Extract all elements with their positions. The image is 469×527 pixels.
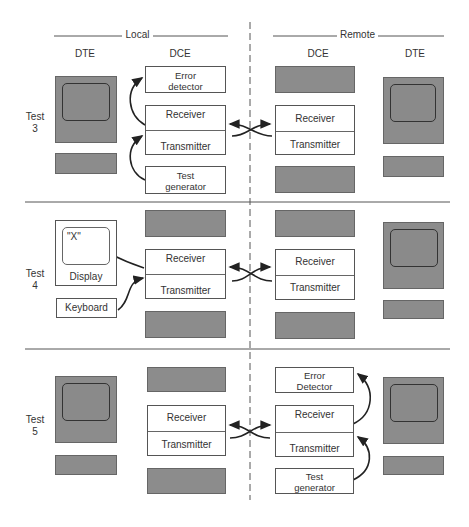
remote-dce-inactive-bottom — [275, 312, 355, 339]
local-dte-keyboard — [55, 455, 117, 475]
receiver-label: Receiver — [148, 412, 225, 423]
local-dce-inactive-bottom — [147, 468, 226, 494]
remote-dte-keyboard — [383, 156, 444, 177]
transmitter-label: Transmitter — [276, 443, 353, 454]
remote-dce-inactive-bottom — [275, 166, 355, 193]
remote-dte-header: DTE — [400, 48, 430, 59]
local-modem: Receiver Transmitter — [147, 405, 226, 456]
error-detector-box: Error detector — [145, 66, 226, 93]
display-char: "X" — [67, 231, 81, 242]
keyboard-box: Keyboard — [56, 298, 117, 318]
remote-dte-keyboard — [383, 456, 444, 475]
local-dce-inactive-top — [145, 210, 226, 237]
modem-divider — [276, 131, 354, 132]
transmitter-label: Transmitter — [276, 139, 354, 150]
remote-dce-inactive-top — [275, 210, 355, 237]
transmitter-label: Transmitter — [146, 141, 225, 152]
local-dce-inactive-bottom — [145, 311, 226, 338]
local-dte-terminal — [55, 376, 117, 443]
transmitter-label: Transmitter — [148, 439, 225, 450]
local-modem: Receiver Transmitter — [145, 249, 226, 299]
test-generator-box: Test generator — [145, 166, 226, 194]
remote-dce-inactive-top — [275, 66, 355, 93]
local-dce-inactive-top — [147, 367, 226, 392]
local-dce-header: DCE — [160, 48, 200, 59]
modem-divider — [146, 274, 225, 275]
local-dte-keyboard — [55, 153, 117, 174]
receiver-label: Receiver — [146, 109, 225, 120]
modem-divider — [146, 130, 225, 131]
modem-divider — [276, 432, 353, 433]
receiver-label: Receiver — [146, 253, 225, 264]
remote-dte-terminal — [383, 377, 444, 444]
local-modem: Receiver Transmitter — [145, 105, 226, 155]
error-detector-box: Error Detector — [275, 367, 354, 393]
test-5-label: Test 5 — [22, 414, 48, 438]
receiver-label: Receiver — [276, 409, 353, 420]
remote-header: Remote — [337, 29, 378, 40]
display-terminal: "X" Display — [55, 220, 117, 286]
local-dte-terminal — [55, 76, 117, 143]
display-label: Display — [56, 271, 116, 282]
transmitter-label: Transmitter — [276, 282, 354, 293]
transmitter-label: Transmitter — [146, 285, 225, 296]
terminal-screen-icon — [390, 84, 436, 122]
remote-dte-keyboard — [383, 300, 444, 319]
remote-dte-terminal — [383, 77, 444, 144]
modem-divider — [276, 275, 354, 276]
display-screen-icon: "X" — [62, 227, 110, 265]
remote-dce-header: DCE — [298, 48, 338, 59]
terminal-screen-icon — [390, 229, 438, 267]
modem-divider — [148, 431, 225, 432]
terminal-screen-icon — [62, 383, 110, 421]
receiver-label: Receiver — [276, 113, 354, 124]
remote-dte-terminal — [383, 222, 444, 289]
local-dte-header: DTE — [70, 48, 100, 59]
receiver-label: Receiver — [276, 256, 354, 267]
test-generator-box: Test generator — [275, 468, 354, 494]
terminal-screen-icon — [390, 384, 438, 422]
test-3-label: Test 3 — [22, 111, 48, 135]
remote-modem: Receiver Transmitter — [275, 405, 354, 457]
terminal-screen-icon — [62, 83, 110, 121]
test-4-label: Test 4 — [22, 268, 48, 292]
remote-modem: Receiver Transmitter — [275, 249, 355, 300]
local-header: Local — [122, 29, 153, 40]
remote-modem: Receiver Transmitter — [275, 105, 355, 155]
